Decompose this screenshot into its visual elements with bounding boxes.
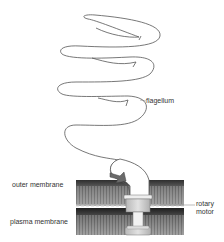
flagellum-diagram	[0, 0, 224, 242]
rotary-motor-label: rotary motor	[196, 200, 214, 216]
flagellum-label: flagellum	[146, 97, 174, 105]
rotary-motor-label-line1: rotary	[196, 200, 214, 208]
flagellum	[58, 15, 160, 196]
plasma-membrane-label: plasma membrane	[10, 218, 68, 226]
outer-membrane-label: outer membrane	[12, 181, 63, 189]
rotary-motor-label-line2: motor	[196, 208, 214, 216]
